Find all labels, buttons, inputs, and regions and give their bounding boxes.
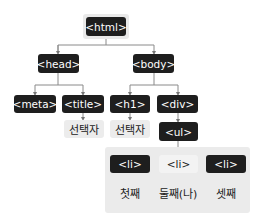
title-text-node: 선택자 [64, 120, 104, 138]
li-text-3: 셋째 [206, 184, 246, 202]
body-node: <body> [133, 54, 174, 73]
li-node-2-highlighted: <li> [159, 155, 198, 173]
li-text-2: 둘째(나) [152, 184, 204, 202]
li-node-3: <li> [206, 155, 246, 173]
div-node: <div> [157, 95, 198, 113]
meta-node: <meta> [14, 95, 56, 113]
li-text-1: 첫째 [110, 184, 150, 202]
li-node-1: <li> [110, 155, 150, 173]
h1-text-node: 선택자 [110, 120, 150, 138]
h1-node: <h1> [110, 95, 150, 113]
ul-node: <ul> [159, 122, 198, 141]
head-node: <head> [38, 54, 79, 73]
html-node: <html> [86, 17, 126, 36]
title-node: <title> [62, 95, 104, 113]
